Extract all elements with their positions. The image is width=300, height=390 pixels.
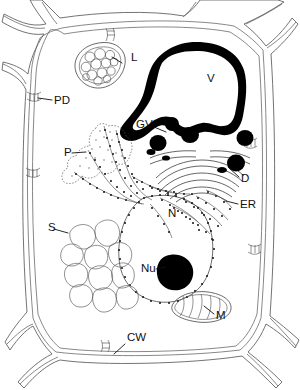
- label-text-GV: GV: [136, 118, 153, 130]
- label-text-PD: PD: [54, 94, 70, 106]
- golgi-vesicle: [165, 117, 179, 131]
- cell-wall: [2, 0, 299, 388]
- golgi-vesicle: [150, 135, 167, 151]
- golgi-vesicle: [147, 149, 156, 155]
- golgi-vesicle: [181, 127, 199, 143]
- golgi-vesicle: [162, 155, 170, 160]
- label-text-S: S: [48, 221, 56, 233]
- golgi-vesicle: [217, 167, 227, 173]
- label-text-D: D: [241, 172, 249, 184]
- label-text-Nu: Nu: [141, 262, 156, 274]
- cell-diagram-figure: L PD GV P D ER V N S Nu: [0, 0, 300, 390]
- golgi-vesicle: [237, 130, 254, 146]
- label-text-P: P: [64, 146, 72, 158]
- nucleolus: [157, 254, 193, 290]
- label-text-CW: CW: [127, 331, 146, 343]
- label-text-N: N: [168, 207, 176, 219]
- label-text-ER: ER: [240, 198, 256, 210]
- label-text-V: V: [207, 72, 215, 84]
- label-text-L: L: [131, 51, 138, 63]
- label-text-M: M: [216, 309, 226, 321]
